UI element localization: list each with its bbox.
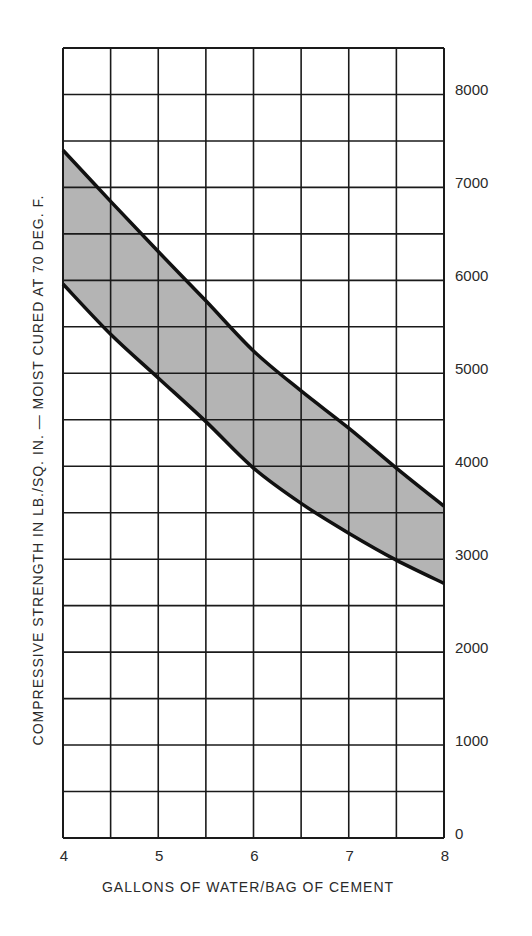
y-tick-label: 2000	[455, 639, 488, 656]
y-tick-label: 5000	[455, 360, 488, 377]
y-tick-label: 1000	[455, 732, 488, 749]
compressive-strength-chart: 010002000300040005000600070008000 45678 …	[0, 0, 532, 936]
x-tick-label: 6	[250, 847, 258, 864]
x-axis-title: GALLONS OF WATER/BAG OF CEMENT	[102, 879, 394, 895]
x-tick-label: 8	[441, 847, 449, 864]
y-tick-label: 8000	[455, 81, 488, 98]
y-axis-title: COMPRESSIVE STRENGTH IN LB./SQ. IN. — MO…	[30, 195, 46, 746]
y-tick-label: 4000	[455, 453, 488, 470]
y-axis-tick-labels: 010002000300040005000600070008000	[455, 81, 488, 842]
x-axis-tick-labels: 45678	[60, 847, 449, 864]
y-tick-label: 3000	[455, 546, 488, 563]
x-tick-label: 4	[60, 847, 68, 864]
grid-lines	[63, 48, 444, 838]
x-tick-label: 5	[155, 847, 163, 864]
y-tick-label: 7000	[455, 174, 488, 191]
y-tick-label: 6000	[455, 267, 488, 284]
x-tick-label: 7	[346, 847, 354, 864]
y-tick-label: 0	[455, 825, 463, 842]
